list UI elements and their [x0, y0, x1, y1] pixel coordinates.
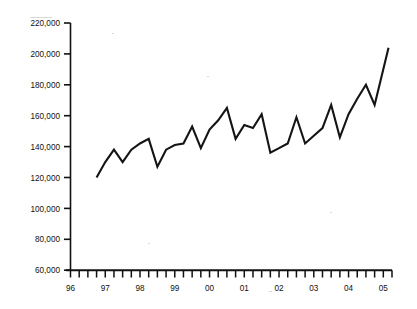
chart-figure: 60,00080,000100,000120,000140,000160,000…: [0, 0, 417, 309]
y-axis-tick-label: 60,000: [35, 266, 60, 275]
x-axis-tick-label: 96: [66, 284, 76, 293]
x-axis-tick-label: 05: [379, 284, 389, 293]
chart-background: [0, 0, 417, 309]
y-axis-tick-label: 140,000: [30, 143, 60, 152]
y-axis-tick-label: 220,000: [30, 19, 60, 28]
x-axis-tick-label: 97: [101, 284, 111, 293]
x-axis-tick-label: 02: [274, 284, 284, 293]
y-axis-tick-label: 120,000: [30, 174, 60, 183]
y-axis-tick-label: 160,000: [30, 112, 60, 121]
line-chart: 60,00080,000100,000120,000140,000160,000…: [0, 0, 417, 309]
y-axis-tick-label: 80,000: [35, 235, 60, 244]
y-axis-tick-label: 200,000: [30, 50, 60, 59]
y-axis-tick-label: 100,000: [30, 205, 60, 214]
x-axis-tick-label: 03: [309, 284, 319, 293]
y-axis-tick-label: 180,000: [30, 81, 60, 90]
x-axis-tick-label: 98: [135, 284, 145, 293]
x-axis-tick-label: 99: [170, 284, 180, 293]
x-axis-tick-label: 00: [205, 284, 215, 293]
x-axis-tick-label: 04: [344, 284, 354, 293]
y-axis-tick-labels: 60,00080,000100,000120,000140,000160,000…: [30, 19, 60, 275]
x-axis-tick-label: 01: [240, 284, 250, 293]
